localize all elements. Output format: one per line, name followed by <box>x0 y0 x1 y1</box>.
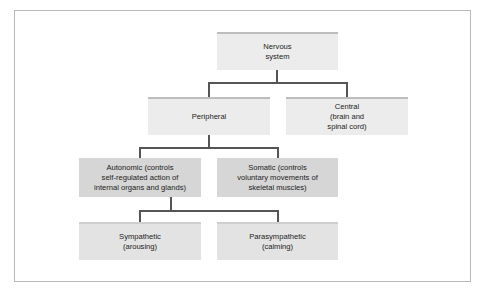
connector-level2-bar <box>139 147 279 149</box>
node-autonomic: Autonomic (controls self-regulated actio… <box>79 158 201 197</box>
node-label: Somatic (controls voluntary movements of… <box>237 163 318 193</box>
node-somatic: Somatic (controls voluntary movements of… <box>217 158 338 197</box>
node-central: Central (brain and spinal cord) <box>286 97 408 135</box>
connector-to-central <box>346 82 348 97</box>
connector-to-sympathetic <box>139 210 141 222</box>
connector-to-peripheral <box>208 82 210 97</box>
connector-to-parasympathetic <box>277 210 279 222</box>
node-label: Sympathetic (arousing) <box>119 232 161 252</box>
node-nervous-system: Nervous system <box>217 32 338 70</box>
node-label: Parasympathetic (calming) <box>249 232 306 252</box>
node-parasympathetic: Parasympathetic (calming) <box>217 222 338 260</box>
connector-to-autonomic <box>139 147 141 158</box>
connector-to-somatic <box>277 147 279 158</box>
node-label: Nervous system <box>263 42 291 62</box>
node-label: Autonomic (controls self-regulated actio… <box>94 163 186 193</box>
connector-level3-bar <box>139 210 279 212</box>
connector-level1-bar <box>208 82 348 84</box>
node-peripheral: Peripheral <box>148 97 270 135</box>
node-label: Central (brain and spinal cord) <box>327 102 366 132</box>
node-sympathetic: Sympathetic (arousing) <box>79 222 201 260</box>
node-label: Peripheral <box>192 112 227 122</box>
